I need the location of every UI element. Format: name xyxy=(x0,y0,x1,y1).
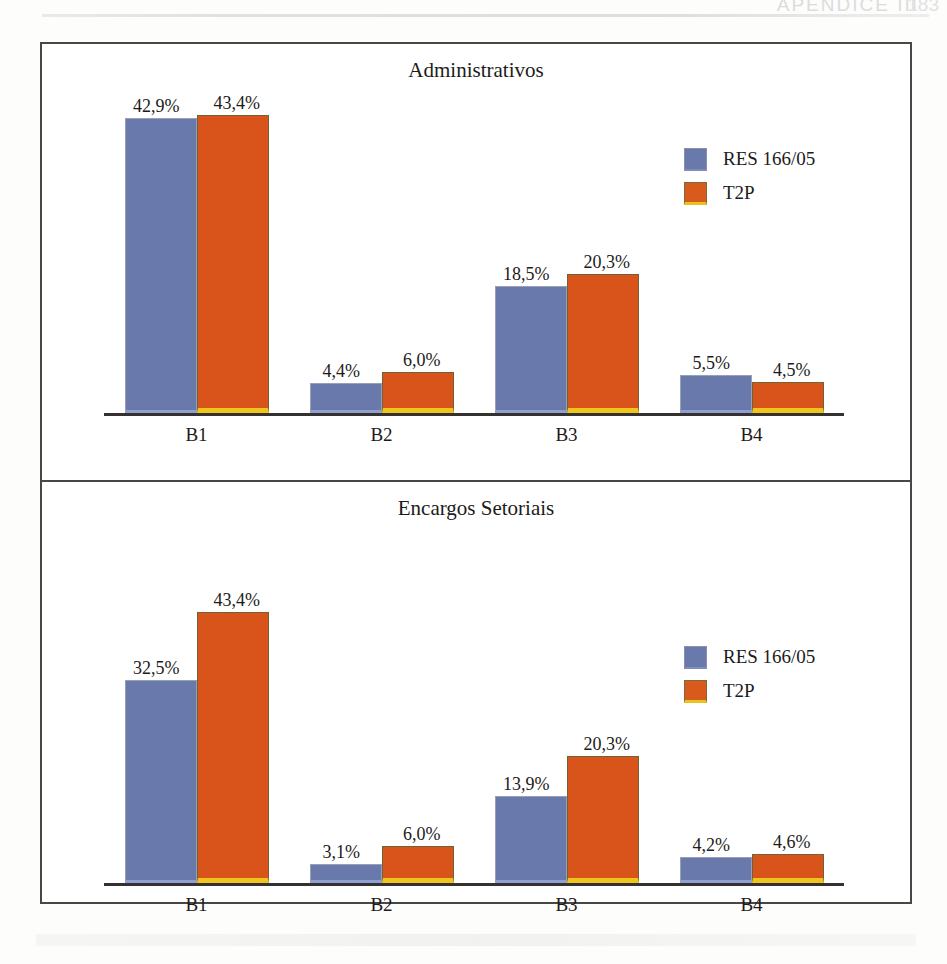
bar-value-b3-res: 18,5% xyxy=(503,264,550,285)
bar-group-b1: 42,9% 43,4% xyxy=(125,101,269,413)
bar-b4-res: 5,5% xyxy=(680,375,752,413)
chart-title-encargos-setoriais: Encargos Setoriais xyxy=(42,496,910,521)
bar-value-b2-res: 4,4% xyxy=(323,361,361,382)
scan-smudge xyxy=(36,934,916,946)
chart-panel-administrativos: Administrativos RES 166/05 T2P 42,9% xyxy=(42,44,910,482)
bar-value-b2-t2p: 6,0% xyxy=(403,350,441,371)
plot-area-administrativos: 42,9% 43,4% 4,4% 6,0% xyxy=(104,104,844,416)
bar-pair: 32,5% 43,4% xyxy=(125,612,269,883)
bar-pair: 18,5% 20,3% xyxy=(495,274,639,413)
bar-value-b3-res: 13,9% xyxy=(503,774,550,795)
bar-value-b1-res: 42,9% xyxy=(133,96,180,117)
bar-group-b4: 5,5% 4,5% xyxy=(680,101,824,413)
x-axis-category-labels: B1 B2 B3 B4 xyxy=(104,886,844,916)
bar-b2-res: 3,1% xyxy=(310,864,382,883)
bar-b2-res: 4,4% xyxy=(310,383,382,413)
bar-value-b4-res: 4,2% xyxy=(693,835,731,856)
bar-pair: 5,5% 4,5% xyxy=(680,375,824,413)
bar-value-b4-res: 5,5% xyxy=(693,353,731,374)
bar-value-b3-t2p: 20,3% xyxy=(583,734,630,755)
bar-value-b2-t2p: 6,0% xyxy=(403,824,441,845)
bar-b3-res: 18,5% xyxy=(495,286,567,413)
bar-pair: 4,4% 6,0% xyxy=(310,372,454,413)
cat-label-b3: B3 xyxy=(555,894,577,916)
bar-b2-t2p: 6,0% xyxy=(382,846,454,883)
bar-pair: 13,9% 20,3% xyxy=(495,756,639,883)
bar-pair: 4,2% 4,6% xyxy=(680,854,824,883)
bar-b3-res: 13,9% xyxy=(495,796,567,883)
bar-value-b1-t2p: 43,4% xyxy=(213,93,260,114)
bar-b3-t2p: 20,3% xyxy=(567,274,639,413)
bar-b1-t2p: 43,4% xyxy=(197,612,269,883)
plot-area-encargos-setoriais: 32,5% 43,4% 3,1% 6,0% xyxy=(104,602,844,886)
bar-group-b3: 13,9% 20,3% xyxy=(495,599,639,883)
cat-label-b4: B4 xyxy=(740,424,762,446)
cat-label-b3: B3 xyxy=(555,424,577,446)
cat-label-b4: B4 xyxy=(740,894,762,916)
bar-group-b2: 3,1% 6,0% xyxy=(310,599,454,883)
bar-b4-t2p: 4,5% xyxy=(752,382,824,413)
bar-b1-res: 42,9% xyxy=(125,118,197,413)
chart-title-administrativos: Administrativos xyxy=(42,58,910,83)
bar-group-b3: 18,5% 20,3% xyxy=(495,101,639,413)
bar-b4-res: 4,2% xyxy=(680,857,752,883)
header-rule xyxy=(42,14,929,17)
bar-pair: 42,9% 43,4% xyxy=(125,115,269,413)
bar-b3-t2p: 20,3% xyxy=(567,756,639,883)
bar-value-b2-res: 3,1% xyxy=(323,842,361,863)
bar-value-b4-t2p: 4,6% xyxy=(773,832,811,853)
bar-groups: 32,5% 43,4% 3,1% 6,0% xyxy=(104,599,844,883)
chart-panel-encargos-setoriais: Encargos Setoriais RES 166/05 T2P 32,5% xyxy=(42,482,910,902)
bar-value-b1-t2p: 43,4% xyxy=(213,590,260,611)
bar-b2-t2p: 6,0% xyxy=(382,372,454,413)
cat-label-b1: B1 xyxy=(185,894,207,916)
bar-value-b4-t2p: 4,5% xyxy=(773,360,811,381)
page-running-header: APÊNDICE III 183 xyxy=(0,0,947,30)
bar-b4-t2p: 4,6% xyxy=(752,854,824,883)
bar-b1-res: 32,5% xyxy=(125,680,197,883)
cat-label-b2: B2 xyxy=(370,894,392,916)
bar-pair: 3,1% 6,0% xyxy=(310,846,454,883)
bar-group-b4: 4,2% 4,6% xyxy=(680,599,824,883)
bar-groups: 42,9% 43,4% 4,4% 6,0% xyxy=(104,101,844,413)
bar-value-b1-res: 32,5% xyxy=(133,658,180,679)
bar-group-b2: 4,4% 6,0% xyxy=(310,101,454,413)
figure-frame: Administrativos RES 166/05 T2P 42,9% xyxy=(40,42,912,904)
cat-label-b1: B1 xyxy=(185,424,207,446)
bar-value-b3-t2p: 20,3% xyxy=(583,252,630,273)
bar-b1-t2p: 43,4% xyxy=(197,115,269,413)
cat-label-b2: B2 xyxy=(370,424,392,446)
x-axis-category-labels: B1 B2 B3 B4 xyxy=(104,416,844,446)
bar-group-b1: 32,5% 43,4% xyxy=(125,599,269,883)
